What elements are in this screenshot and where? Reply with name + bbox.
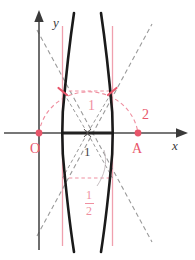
fraction-denominator: 2: [80, 205, 98, 218]
origin-label: O: [30, 142, 40, 156]
inner-guide-lower-right: [88, 133, 113, 178]
fraction-numerator: 1: [80, 189, 98, 202]
figure-canvas: [0, 0, 195, 260]
point-origin-dot: [36, 130, 43, 137]
point-a-label: A: [132, 142, 142, 156]
label-one-lower: 1: [84, 145, 91, 158]
label-one-half: 1 2: [80, 189, 98, 217]
inner-guide-upper-left: [63, 91, 88, 133]
x-axis-arrow-icon: [176, 128, 188, 138]
point-a-dot: [135, 130, 142, 137]
hyperbola-figure: y x O A 2 1 1 1 2: [0, 0, 195, 260]
label-two: 2: [142, 108, 149, 122]
label-one-upper: 1: [88, 99, 95, 113]
y-axis-label: y: [53, 16, 59, 29]
x-axis-label: x: [172, 139, 178, 152]
fraction-pointer-curve: [97, 150, 106, 186]
y-axis-arrow-icon: [34, 10, 43, 22]
